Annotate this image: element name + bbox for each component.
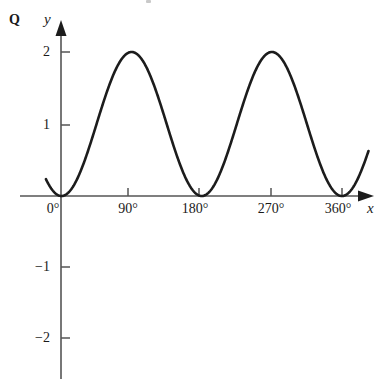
curve-cosine — [46, 52, 369, 196]
x-axis-arrowhead — [358, 191, 374, 202]
x-tick-label-90: 90° — [104, 202, 152, 216]
plot-area — [0, 0, 380, 383]
x-tick-label-360: 360° — [312, 202, 364, 216]
figure-container: Q y x 2 1 −1 −2 0° 90° 180 — [0, 0, 380, 383]
x-tick-label-180: 180° — [169, 202, 221, 216]
y-tick-label-1: 1 — [22, 118, 50, 132]
y-tick-label-neg2: −2 — [22, 331, 50, 345]
x-tick-label-270: 270° — [245, 202, 297, 216]
x-axis-ticks — [128, 188, 342, 196]
y-tick-label-2: 2 — [22, 45, 50, 59]
y-axis-arrowhead — [56, 20, 67, 36]
x-tick-label-0: 0° — [38, 202, 68, 216]
y-tick-label-neg1: −1 — [22, 260, 50, 274]
